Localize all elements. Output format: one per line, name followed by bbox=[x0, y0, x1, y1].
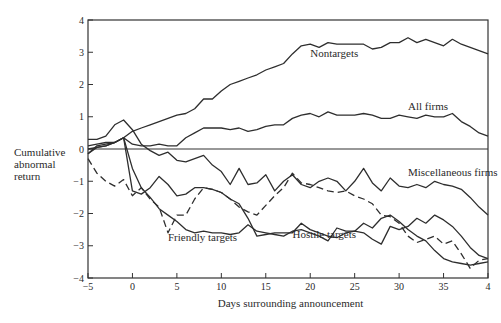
series-annotation: Miscellaneous firms bbox=[408, 166, 498, 178]
y-axis-label-line-3: return bbox=[14, 170, 65, 182]
x-axis-label: Days surrounding announcement bbox=[0, 297, 501, 309]
y-axis-label: Cumulative abnormal return bbox=[14, 146, 65, 182]
y-tick-label: 0 bbox=[79, 144, 84, 155]
series-line bbox=[88, 138, 488, 259]
y-axis-label-line-1: Cumulative bbox=[14, 146, 65, 158]
series-lines bbox=[88, 38, 488, 269]
x-tick-label: 4 bbox=[486, 281, 491, 292]
x-tick-label: 10 bbox=[216, 281, 226, 292]
series-line bbox=[88, 38, 488, 149]
y-tick-label: −2 bbox=[73, 208, 84, 219]
y-tick-label: −3 bbox=[73, 240, 84, 251]
series-line bbox=[88, 112, 488, 146]
series-line bbox=[88, 138, 488, 265]
x-tick-label: 5 bbox=[174, 281, 179, 292]
x-tick-label: 30 bbox=[394, 281, 404, 292]
x-tick-label: 15 bbox=[261, 281, 271, 292]
y-tick-label: 2 bbox=[79, 79, 84, 90]
y-tick-label: 1 bbox=[79, 111, 84, 122]
x-tick-label: 35 bbox=[439, 281, 449, 292]
x-axis-ticks: −5051015202530354 bbox=[83, 273, 491, 292]
x-tick-label: −5 bbox=[83, 281, 94, 292]
y-tick-label: 3 bbox=[79, 47, 84, 58]
y-axis-label-line-2: abnormal bbox=[14, 158, 65, 170]
x-tick-label: 20 bbox=[305, 281, 315, 292]
y-tick-label: −1 bbox=[73, 176, 84, 187]
y-tick-label: 4 bbox=[79, 15, 84, 26]
series-annotation: Friendly targets bbox=[168, 231, 237, 243]
series-annotation: Nontargets bbox=[310, 47, 358, 59]
series-annotation: Hostile targets bbox=[292, 228, 356, 240]
x-tick-label: 25 bbox=[350, 281, 360, 292]
series-annotations: NontargetsAll firmsMiscellaneous firmsFr… bbox=[168, 47, 498, 243]
chart-canvas: −4−3−2−101234 −5051015202530354 Nontarge… bbox=[0, 0, 501, 323]
x-tick-label: 0 bbox=[130, 281, 135, 292]
series-annotation: All firms bbox=[408, 100, 448, 112]
